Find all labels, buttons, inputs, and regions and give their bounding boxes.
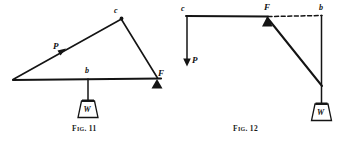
label-force-p: P — [192, 56, 198, 65]
label-point-c: c — [181, 5, 185, 13]
apex-to-fulcrum-line — [122, 20, 158, 79]
caption-ig: IG — [77, 126, 85, 132]
label-weight-w: W — [317, 109, 324, 117]
label-point-b: b — [85, 67, 89, 75]
weight-cap — [82, 100, 94, 102]
fulcrum-triangle — [152, 79, 163, 89]
caption-number: . 12 — [246, 124, 258, 133]
weight-cap — [316, 103, 328, 105]
figure-12-caption: FIG. 12 — [233, 124, 258, 133]
dashed-extension-line — [268, 16, 322, 17]
figure-11: c P b F W FIG. 11 — [0, 0, 176, 141]
caption-number: . 11 — [85, 124, 97, 133]
cord-diagonal-line — [268, 18, 323, 86]
figure-12-linework — [176, 0, 351, 141]
apex-vertex-dot — [120, 17, 124, 21]
label-apex-c: c — [114, 7, 118, 15]
label-weight-w: W — [84, 106, 91, 114]
figure-12: c P F b W FIG. 12 — [176, 0, 351, 141]
lever-baseline — [13, 79, 161, 81]
top-bar-line — [186, 16, 268, 17]
label-fulcrum-f: F — [158, 69, 164, 78]
force-member-line — [13, 19, 122, 80]
label-fulcrum-f: F — [264, 3, 270, 12]
label-force-p: P — [53, 42, 59, 51]
caption-ig: IG — [238, 126, 246, 132]
label-point-b: b — [319, 4, 323, 12]
figure-11-caption: FIG. 11 — [72, 124, 97, 133]
figure-page: c P b F W FIG. 11 — [0, 0, 351, 141]
force-arrowhead-down — [183, 59, 191, 67]
